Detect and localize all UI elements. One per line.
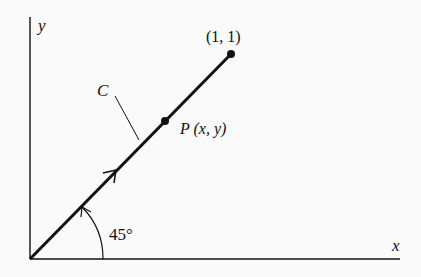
curve-label: C bbox=[97, 81, 109, 100]
point-p-dot bbox=[161, 117, 169, 125]
y-axis-label: y bbox=[36, 16, 46, 35]
x-axis-label: x bbox=[391, 236, 400, 255]
point-label: P (x, y) bbox=[179, 120, 226, 138]
diagram-canvas: y x C (1, 1) P (x, y) 45° bbox=[0, 0, 421, 277]
angle-arc bbox=[82, 207, 103, 259]
endpoint-label: (1, 1) bbox=[206, 28, 241, 46]
endpoint-dot bbox=[227, 50, 235, 58]
angle-label: 45° bbox=[109, 225, 133, 244]
curve-label-leader bbox=[115, 96, 139, 140]
